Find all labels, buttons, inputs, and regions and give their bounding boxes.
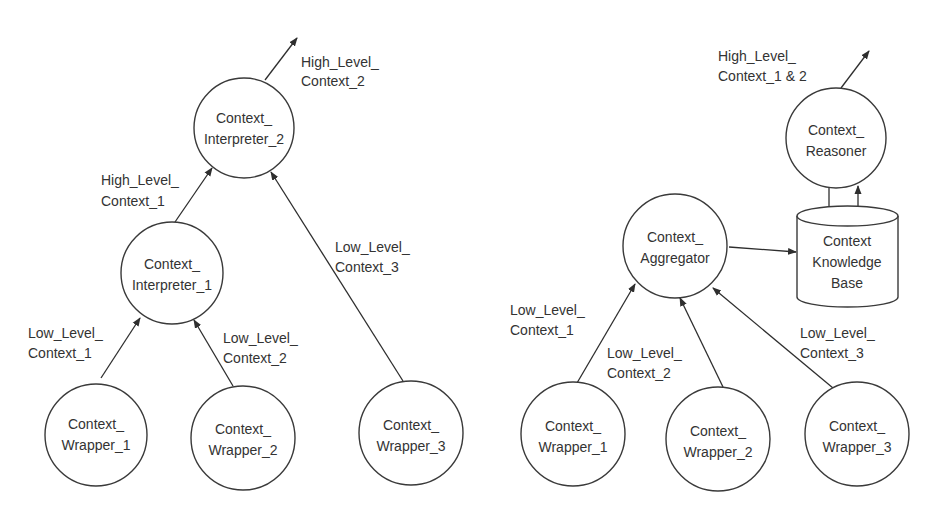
node-label-line2: Wrapper_2: [683, 444, 752, 460]
edge-label-line2: Context_2: [607, 365, 671, 381]
edge-wrapper1-interpreter1: [101, 318, 140, 378]
node-context-wrapper-1: Context_ Wrapper_1: [45, 384, 147, 486]
node-label-line1: Context_: [647, 229, 703, 245]
edge-label-line2: Context_1: [28, 345, 92, 361]
node-label-line2: Wrapper_1: [538, 439, 607, 455]
edge-label-line1: High_Level_: [101, 172, 179, 188]
edge-label-line2: Context_2: [223, 350, 287, 366]
edge-label-line2: Context_1 & 2: [718, 68, 807, 84]
edge-label-line1: Low_Level_: [607, 345, 682, 361]
edge-label-low-level-context-2: Low_Level_ Context_2: [607, 345, 682, 381]
right-diagram: Context Knowledge Base Context_ Reasoner…: [510, 48, 909, 491]
edge-label-low-level-context-2: Low_Level_ Context_2: [223, 330, 298, 366]
edge-label-low-level-context-3: Low_Level_ Context_3: [335, 239, 410, 275]
diagram-canvas: Context_ Interpreter_2 Context_ Interpre…: [0, 0, 940, 514]
edge-label-line2: Context_3: [800, 345, 864, 361]
node-label-line1: Context: [823, 233, 871, 249]
edge-label-line1: High_Level_: [718, 48, 796, 64]
edge-label-line1: Low_Level_: [510, 302, 585, 318]
node-label-line1: Context_: [690, 423, 746, 439]
edge-label-line1: Low_Level_: [800, 325, 875, 341]
node-label-line2: Wrapper_3: [376, 438, 445, 454]
edge-reasoner-output: [841, 51, 869, 88]
node-context-wrapper-2: Context_ Wrapper_2: [666, 387, 770, 491]
edge-label-line2: Context_1: [101, 193, 165, 209]
edge-label-low-level-context-1: Low_Level_ Context_1: [510, 302, 585, 338]
edge-wrapper2-aggregator: [680, 298, 723, 387]
edge-label-line1: High_Level_: [301, 54, 379, 70]
node-label-line2: Aggregator: [640, 250, 710, 266]
node-label-line2: Wrapper_3: [822, 439, 891, 455]
node-context-reasoner: Context_ Reasoner: [786, 88, 886, 188]
node-label-line1: Context_: [383, 417, 439, 433]
node-context-wrapper-3: Context_ Wrapper_3: [359, 381, 463, 485]
node-label-line2: Interpreter_2: [204, 131, 284, 147]
edge-label-line1: Low_Level_: [28, 325, 103, 341]
edge-interpreter2-output: [265, 38, 297, 80]
edge-interpreter1-interpreter2: [175, 168, 212, 222]
edge-label-low-level-context-1: Low_Level_ Context_1: [28, 325, 103, 361]
node-label-line2: Knowledge: [812, 254, 881, 270]
left-diagram: Context_ Interpreter_2 Context_ Interpre…: [28, 38, 463, 490]
node-label-line1: Context_: [215, 421, 271, 437]
edge-label-high-level-context-1-and-2: High_Level_ Context_1 & 2: [718, 48, 807, 84]
edge-label-line1: Low_Level_: [335, 239, 410, 255]
node-label-line1: Context_: [68, 416, 124, 432]
edge-label-low-level-context-3: Low_Level_ Context_3: [800, 325, 875, 361]
edge-label-line1: Low_Level_: [223, 330, 298, 346]
edge-wrapper3-interpreter2: [271, 172, 403, 381]
node-label-line2: Wrapper_2: [208, 442, 277, 458]
node-label-line1: Context_: [545, 418, 601, 434]
node-context-interpreter-1: Context_ Interpreter_1: [121, 222, 223, 324]
edge-label-high-level-context-1: High_Level_ Context_1: [101, 172, 179, 209]
node-label-line3: Base: [831, 275, 863, 291]
node-label-line1: Context_: [808, 122, 864, 138]
node-label-line2: Interpreter_1: [132, 277, 212, 293]
node-label-line1: Context_: [216, 110, 272, 126]
edge-aggregator-knowledge-base: [729, 247, 796, 252]
node-label-line1: Context_: [829, 418, 885, 434]
node-context-wrapper-3: Context_ Wrapper_3: [805, 382, 909, 486]
node-context-aggregator: Context_ Aggregator: [623, 194, 727, 298]
node-context-interpreter-2: Context_ Interpreter_2: [194, 78, 294, 178]
edge-label-line2: Context_2: [301, 73, 365, 89]
node-label-line2: Wrapper_1: [61, 437, 130, 453]
edge-label-line2: Context_1: [510, 322, 574, 338]
node-context-wrapper-1: Context_ Wrapper_1: [521, 382, 625, 486]
node-context-knowledge-base: Context Knowledge Base: [797, 206, 898, 307]
edge-label-high-level-context-2: High_Level_ Context_2: [301, 54, 379, 89]
node-label-line2: Reasoner: [806, 143, 867, 159]
edge-label-line2: Context_3: [335, 259, 399, 275]
node-context-wrapper-2: Context_ Wrapper_2: [191, 386, 295, 490]
node-label-line1: Context_: [144, 256, 200, 272]
